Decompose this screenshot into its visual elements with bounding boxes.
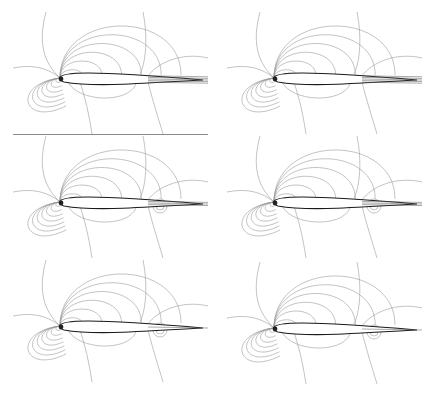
contour-line xyxy=(60,26,181,78)
contour-line xyxy=(13,190,60,202)
contour-line xyxy=(362,56,422,76)
airfoil xyxy=(274,323,417,335)
contour-line xyxy=(362,332,377,384)
stagnation-point xyxy=(59,201,64,206)
contour-line xyxy=(362,206,377,258)
figure-caption-fragment xyxy=(185,0,431,3)
stagnation-point xyxy=(59,77,64,82)
contour-line xyxy=(362,82,377,134)
stagnation-point xyxy=(273,201,278,206)
contour-line xyxy=(148,206,163,258)
contour-panel xyxy=(222,136,422,258)
contour-line xyxy=(227,316,274,328)
stagnation-point xyxy=(59,325,64,330)
contour-line xyxy=(148,56,208,76)
contour-line xyxy=(148,304,208,324)
contour-line xyxy=(42,12,60,78)
contour-line xyxy=(362,306,422,326)
contour-panel xyxy=(8,12,208,134)
contour-line xyxy=(256,136,274,202)
contour-line xyxy=(80,206,92,258)
contour-line xyxy=(42,136,60,202)
stagnation-point xyxy=(273,77,278,82)
contour-line xyxy=(60,150,181,202)
contour-line xyxy=(294,206,306,258)
contour-plot xyxy=(8,12,208,134)
contour-line xyxy=(362,180,422,200)
contour-line xyxy=(13,314,60,326)
contour-plot xyxy=(222,262,422,384)
contour-line xyxy=(274,150,395,202)
contour-panel xyxy=(8,136,208,258)
contour-line xyxy=(274,26,395,78)
airfoil xyxy=(60,197,203,209)
contour-plot xyxy=(222,136,422,258)
contour-line xyxy=(227,190,274,202)
airfoil xyxy=(274,197,417,209)
contour-line xyxy=(80,330,92,382)
contour-line xyxy=(294,82,306,134)
contour-line xyxy=(256,262,274,328)
contour-line xyxy=(294,332,306,384)
contour-line xyxy=(274,276,395,328)
stagnation-point xyxy=(273,327,278,332)
contour-line xyxy=(148,82,163,134)
contour-line xyxy=(80,82,92,134)
contour-line xyxy=(13,66,60,78)
contour-line xyxy=(227,66,274,78)
contour-plot xyxy=(8,260,208,382)
contour-plot xyxy=(8,136,208,258)
separator-line xyxy=(13,134,208,135)
contour-line xyxy=(60,274,181,326)
contour-plot xyxy=(222,12,422,134)
airfoil xyxy=(60,321,203,333)
contour-panel xyxy=(222,262,422,384)
contour-line xyxy=(148,330,163,382)
contour-panel xyxy=(222,12,422,134)
contour-line xyxy=(148,180,208,200)
contour-line xyxy=(256,12,274,78)
contour-panel xyxy=(8,260,208,382)
contour-line xyxy=(42,260,60,326)
